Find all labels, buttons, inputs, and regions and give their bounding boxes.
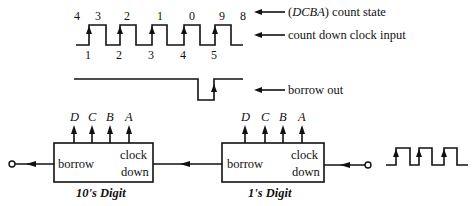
rising-edge-arrow-icon	[212, 26, 218, 34]
up-arrow-icon	[242, 125, 248, 134]
rising-edge-arrow-icon	[211, 84, 217, 92]
output-d: D	[240, 110, 250, 124]
bcd-down-counter-diagram: 4 3 2 1 0 9 8 1 2 3 4 5 (DCBA) count sta…	[0, 0, 475, 206]
count-state-label: (DCBA) count state	[288, 5, 386, 19]
count-state: 8	[240, 9, 246, 23]
borrow-label: borrow out	[288, 83, 344, 97]
borrow-waveform	[74, 79, 243, 100]
clock-pin-label: clock	[120, 148, 148, 162]
output-b: B	[106, 110, 114, 124]
up-arrow-icon	[107, 125, 113, 134]
left-arrow-icon	[180, 161, 190, 167]
pulse-number: 3	[148, 48, 154, 62]
count-state: 2	[124, 9, 130, 23]
count-state: 1	[157, 9, 163, 23]
input-terminal	[365, 162, 371, 168]
rising-edge-arrow-icon	[117, 26, 123, 34]
output-b: B	[279, 110, 287, 124]
rising-edge-arrow-icon	[441, 149, 447, 157]
down-pin-label: down	[292, 165, 321, 179]
left-arrow-icon	[340, 162, 350, 168]
annotation-count-state: (DCBA) count state	[258, 5, 386, 19]
rising-edge-arrow-icon	[149, 26, 155, 34]
pulse-number: 2	[116, 48, 122, 62]
clock-waveform	[76, 25, 243, 45]
left-arrow-icon	[26, 161, 36, 167]
borrow-pin-label: borrow	[227, 157, 263, 171]
rising-edge-arrow-icon	[393, 149, 399, 157]
up-arrow-icon	[299, 125, 305, 134]
output-c: C	[88, 110, 97, 124]
annotation-clock: count down clock input	[258, 28, 406, 42]
down-pin-label: down	[121, 165, 150, 179]
pulse-number: 4	[180, 48, 186, 62]
output-a: A	[124, 110, 133, 124]
up-arrow-icon	[262, 125, 268, 134]
clock-label: count down clock input	[288, 28, 406, 42]
count-state: 4	[74, 9, 80, 23]
up-arrow-icon	[126, 125, 132, 134]
rising-edge-arrow-icon	[86, 26, 92, 34]
count-state: 9	[219, 9, 225, 23]
counter-ones-digit: D C B A borrow clock down 1's Digit	[222, 110, 324, 200]
rising-edge-arrow-icon	[416, 149, 422, 157]
output-a: A	[297, 110, 306, 124]
rising-edge-arrow-icon	[181, 26, 187, 34]
counter-caption: 1's Digit	[248, 186, 292, 200]
borrow-pin-label: borrow	[58, 157, 94, 171]
counter-caption: 10's Digit	[76, 186, 126, 200]
count-state: 3	[95, 9, 101, 23]
up-arrow-icon	[71, 125, 77, 134]
output-terminal	[9, 161, 15, 167]
output-d: D	[69, 110, 79, 124]
up-arrow-icon	[280, 125, 286, 134]
pulse-number: 1	[85, 48, 91, 62]
clock-pulse-numbers: 1 2 3 4 5	[85, 48, 217, 62]
count-state-labels: 4 3 2 1 0 9 8	[74, 9, 246, 23]
annotation-borrow: borrow out	[258, 83, 344, 97]
counter-tens-digit: D C B A borrow clock down 10's Digit	[54, 110, 153, 200]
up-arrow-icon	[89, 125, 95, 134]
count-state: 0	[189, 9, 195, 23]
pulse-number: 5	[211, 48, 217, 62]
clock-pin-label: clock	[291, 148, 319, 162]
output-c: C	[261, 110, 270, 124]
